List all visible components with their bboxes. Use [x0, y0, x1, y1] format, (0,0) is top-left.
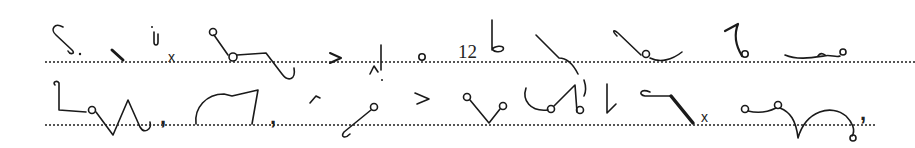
outline-vertical-tick [370, 45, 383, 81]
outline-circles-wave-curl [742, 102, 857, 142]
outline-circle-slant [343, 104, 378, 137]
outline-vertical-tick-2 [607, 84, 616, 113]
outline-12b [492, 20, 503, 52]
outline-angle-mark [330, 53, 341, 63]
outline-small-circle [419, 54, 425, 60]
numeral-12: 12 [458, 42, 477, 61]
outline-arch-vertical [196, 90, 258, 124]
outline-hook-circle-zigzag [54, 82, 150, 135]
outline-circle-slant-hook [210, 29, 295, 79]
comma-2: , [270, 106, 276, 128]
outline-hook-heavy-slant [641, 91, 693, 123]
outline-heavy-slant [112, 50, 123, 60]
x-mark-2: x [701, 110, 708, 124]
outline-curve-circle [785, 49, 846, 58]
outline-curve-circles [525, 80, 586, 114]
outline-hook-slant-curve [614, 31, 682, 61]
outline-slant-curve [536, 35, 578, 74]
comma-3: , [860, 102, 866, 124]
outline-short-tick [310, 96, 320, 103]
outline-s-stroke [53, 25, 81, 55]
outline-angle-mark-2 [415, 93, 429, 104]
outline-circle-v-circle [464, 94, 507, 124]
comma-1: , [160, 106, 166, 128]
outline-curl [725, 24, 748, 57]
outline-j-hook [151, 26, 158, 45]
x-mark-1: x [168, 50, 175, 64]
